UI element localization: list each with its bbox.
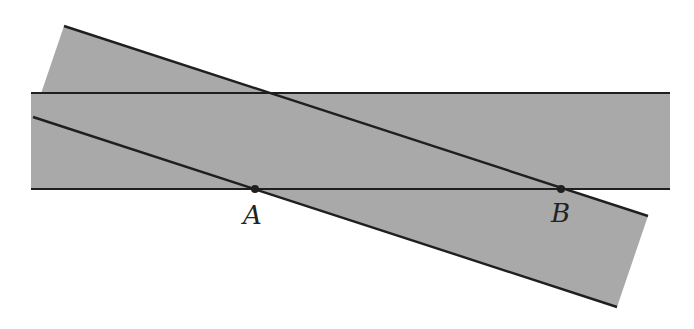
point-b-label: B <box>550 198 570 228</box>
point-a-label: A <box>241 200 262 230</box>
overlapping-strips-diagram: A B <box>0 0 694 329</box>
point-a <box>251 185 259 193</box>
horizontal-strip <box>31 93 670 189</box>
point-b <box>557 185 565 193</box>
